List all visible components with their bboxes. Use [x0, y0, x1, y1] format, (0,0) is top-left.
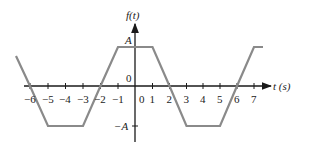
x-tick-label: −4	[59, 93, 71, 105]
x-tick-label: 1	[150, 93, 156, 105]
amplitude-neg-label: −A	[114, 120, 128, 132]
x-tick-label: −1	[112, 93, 124, 105]
x-axis-label: t (s)	[273, 80, 291, 93]
x-tick-label: 7	[251, 93, 257, 105]
origin-label: 0	[126, 72, 132, 84]
x-tick-label: −5	[42, 93, 54, 105]
amplitude-pos-label: A	[124, 34, 132, 46]
x-tick-label: −3	[77, 93, 89, 105]
x-tick-label: 2	[167, 93, 173, 105]
x-tick-label: 4	[200, 93, 206, 105]
y-axis-label: f(t)	[126, 9, 140, 22]
x-tick-label: 0	[139, 93, 145, 105]
x-tick-label: −6	[24, 93, 36, 105]
x-tick-labels: −6 −5 −4 −3 −2 −1 0 1 2 3 4 5 6 7	[24, 93, 257, 105]
x-tick-label: 3	[184, 93, 190, 105]
x-tick-label: 5	[217, 93, 223, 105]
x-tick-label: −2	[94, 93, 106, 105]
waveform-figure: f(t) t (s) 0 A −A −6 −5 −4 −3 −2 −1 0 1 …	[0, 0, 313, 149]
x-tick-label: 6	[234, 93, 240, 105]
